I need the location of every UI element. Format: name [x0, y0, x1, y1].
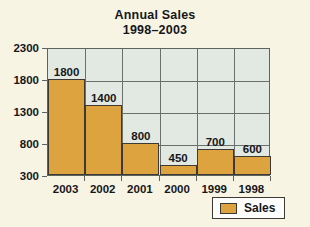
y-tick-label-800: 800 [0, 138, 39, 150]
bar-value-label-1998: 600 [234, 143, 271, 155]
bar-value-labels: 18001400800450700600 [48, 49, 269, 175]
x-tick-label-2000: 2000 [159, 183, 196, 195]
x-tick-label-2002: 2002 [84, 183, 121, 195]
chart-title-block: Annual Sales 1998–2003 [0, 8, 310, 38]
x-tick-label-1998: 1998 [233, 183, 270, 195]
x-tick-mark-1999 [233, 176, 234, 181]
bar-value-label-2003: 1800 [48, 66, 85, 78]
chart-legend[interactable]: Sales [212, 197, 285, 219]
y-tick-mark-300 [42, 176, 47, 177]
x-tick-mark-2000 [196, 176, 197, 181]
legend-item-label: Sales [244, 201, 275, 215]
x-tick-mark-1998 [270, 176, 271, 181]
bar-value-label-2000: 450 [160, 152, 197, 164]
y-tick-label-300: 300 [0, 170, 39, 182]
x-tick-label-1999: 1999 [196, 183, 233, 195]
x-tick-label-2001: 2001 [121, 183, 158, 195]
x-tick-mark-2003 [84, 176, 85, 181]
x-tick-label-2003: 2003 [47, 183, 84, 195]
plot-area: 18001400800450700600 [47, 48, 270, 176]
bar-value-label-1999: 700 [197, 136, 234, 148]
bar-value-label-2002: 1400 [85, 92, 122, 104]
chart-subtitle: 1998–2003 [0, 23, 310, 38]
x-tick-mark-2002 [121, 176, 122, 181]
y-tick-label-1300: 1300 [0, 106, 39, 118]
bar-value-label-2001: 800 [122, 130, 159, 142]
y-tick-label-1800: 1800 [0, 74, 39, 86]
chart-figure: Annual Sales 1998–2003 23001800130080030… [0, 0, 310, 227]
x-tick-mark-2001 [159, 176, 160, 181]
y-tick-label-2300: 2300 [0, 42, 39, 54]
sales-color-swatch [220, 203, 237, 214]
page-title: Annual Sales [0, 8, 310, 23]
